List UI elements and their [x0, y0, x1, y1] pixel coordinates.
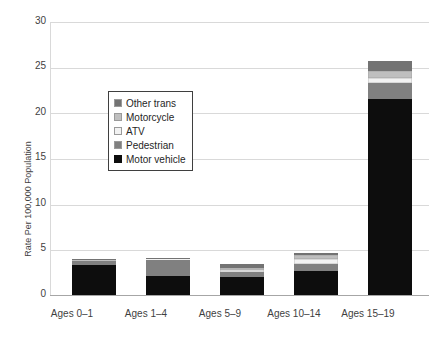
- y-tick-25: 25: [14, 60, 46, 71]
- segment-motorcycle: [220, 268, 264, 270]
- plot-area: [50, 22, 429, 296]
- segment-motorcycle: [294, 255, 338, 260]
- y-axis-title-container: Rate Per 100,000 Population: [8, 90, 24, 230]
- segment-motor-vehicle: [220, 277, 264, 296]
- segment-other-trans: [368, 61, 412, 71]
- segment-pedestrian: [220, 272, 264, 277]
- y-tick-0: 0: [14, 288, 46, 299]
- segment-pedestrian: [72, 260, 116, 265]
- legend-item-atv[interactable]: ATV: [114, 124, 185, 138]
- segment-other-trans: [220, 264, 264, 268]
- legend-label-pedestrian: Pedestrian: [126, 140, 174, 151]
- segment-pedestrian: [368, 83, 412, 99]
- segment-other-trans: [294, 253, 338, 255]
- segment-motor-vehicle: [146, 276, 190, 296]
- legend-swatch-other-trans-icon: [114, 99, 122, 107]
- legend-label-motorcycle: Motorcycle: [126, 112, 174, 123]
- x-tick-ages-15-19: Ages 15–19: [323, 308, 413, 319]
- legend-swatch-motorcycle-icon: [114, 113, 122, 121]
- legend-item-pedestrian[interactable]: Pedestrian: [114, 138, 185, 152]
- segment-pedestrian: [146, 259, 190, 275]
- legend-item-motorcycle[interactable]: Motorcycle: [114, 110, 185, 124]
- segment-motorcycle: [146, 258, 190, 259]
- legend-item-motor-vehicle[interactable]: Motor vehicle: [114, 152, 185, 166]
- segment-motor-vehicle: [294, 271, 338, 296]
- segment-atv: [220, 270, 264, 273]
- segment-motor-vehicle: [368, 99, 412, 296]
- legend-swatch-motor-vehicle-icon: [114, 155, 122, 163]
- legend-label-motor-vehicle: Motor vehicle: [126, 154, 185, 165]
- x-axis-line: [50, 295, 429, 296]
- segment-atv: [368, 78, 412, 83]
- segment-atv: [294, 259, 338, 264]
- legend-label-other-trans: Other trans: [126, 98, 176, 109]
- segment-pedestrian: [294, 264, 338, 271]
- legend-swatch-atv-icon: [114, 127, 122, 135]
- y-tick-30: 30: [14, 15, 46, 26]
- segment-motorcycle: [368, 71, 412, 77]
- legend-swatch-pedestrian-icon: [114, 141, 122, 149]
- legend-item-other-trans[interactable]: Other trans: [114, 96, 185, 110]
- y-axis-title: Rate Per 100,000 Population: [23, 124, 33, 274]
- legend-label-atv: ATV: [126, 126, 145, 137]
- segment-motor-vehicle: [72, 265, 116, 296]
- chart-legend[interactable]: Other trans Motorcycle ATV Pedestrian Mo…: [108, 91, 193, 171]
- stacked-bar-chart: 0 5 10 15 20 25 30 Rate Per 100,000 Popu…: [0, 0, 434, 342]
- gridline-30: [50, 22, 429, 23]
